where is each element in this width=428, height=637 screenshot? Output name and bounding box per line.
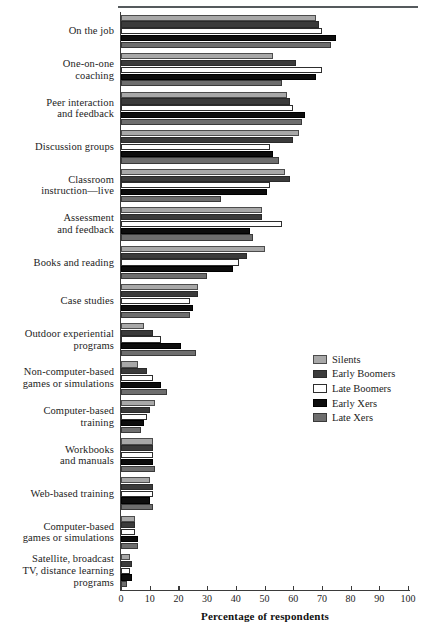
x-axis-line: [120, 590, 410, 591]
x-axis-tick-label: 40: [231, 593, 241, 604]
bar: [121, 67, 322, 73]
bar: [121, 522, 135, 528]
category-label: Web-based training: [0, 488, 114, 500]
x-axis: Percentage of respondents 01020304050607…: [120, 590, 428, 636]
category-label: Discussion groups: [0, 141, 114, 153]
bar: [121, 466, 155, 472]
category-label: Case studies: [0, 295, 114, 307]
bar: [121, 389, 167, 395]
bar: [121, 189, 267, 195]
bar: [121, 246, 265, 252]
x-axis-tick-label: 80: [346, 593, 356, 604]
category-label: One-on-onecoaching: [0, 58, 114, 81]
legend-item-silents[interactable]: Silents: [313, 352, 425, 367]
legend-item-early-boomers[interactable]: Early Boomers: [313, 367, 425, 382]
bar: [121, 92, 287, 98]
bar: [121, 21, 319, 27]
legend-swatch-icon: [313, 370, 327, 379]
x-axis-tick: [351, 586, 352, 591]
x-axis-tick-label: 10: [145, 593, 155, 604]
bar: [121, 259, 239, 265]
bar: [121, 516, 135, 522]
bar: [121, 234, 253, 240]
legend-label: Early Xers: [332, 398, 377, 409]
bar: [121, 74, 316, 80]
x-axis-tick: [293, 586, 294, 591]
x-axis-title: Percentage of respondents: [120, 610, 410, 622]
bar: [121, 445, 153, 451]
bar: [121, 484, 153, 490]
legend-item-early-xers[interactable]: Early Xers: [313, 396, 425, 411]
bar: [121, 28, 322, 34]
bar: [121, 574, 132, 580]
bar: [121, 477, 150, 483]
bar: [121, 291, 198, 297]
bar: [121, 491, 153, 497]
legend-label: Late Boomers: [332, 383, 391, 394]
x-axis-tick: [322, 586, 323, 591]
bar: [121, 452, 153, 458]
bar: [121, 105, 293, 111]
category-label: Classroominstruction—live: [0, 174, 114, 197]
bar: [121, 284, 198, 290]
bar: [121, 98, 290, 104]
bar: [121, 459, 153, 465]
category-label: Books and reading: [0, 257, 114, 269]
bar: [121, 312, 190, 318]
x-axis-tick: [236, 586, 237, 591]
category-label: Computer-basedtraining: [0, 405, 114, 428]
bar: [121, 207, 262, 213]
legend: SilentsEarly BoomersLate BoomersEarly Xe…: [313, 352, 425, 425]
x-axis-tick-label: 70: [317, 593, 327, 604]
bar: [121, 343, 181, 349]
legend-item-late-boomers[interactable]: Late Boomers: [313, 381, 425, 396]
bar: [121, 53, 273, 59]
bar: [121, 42, 331, 48]
bar: [121, 273, 207, 279]
bar: [121, 368, 147, 374]
legend-label: Early Boomers: [332, 368, 395, 379]
bar: [121, 375, 153, 381]
bar: [121, 427, 141, 433]
bar: [121, 266, 233, 272]
bar: [121, 323, 144, 329]
plot-area: On the jobOne-on-onecoachingPeer interac…: [0, 12, 428, 590]
bar: [121, 228, 250, 234]
bar: [121, 305, 193, 311]
bar: [121, 112, 305, 118]
bar: [121, 137, 293, 143]
bar: [121, 151, 273, 157]
x-axis-tick: [150, 586, 151, 591]
x-axis-tick-label: 60: [288, 593, 298, 604]
legend-label: Silents: [332, 354, 361, 365]
legend-swatch-icon: [313, 399, 327, 408]
bar: [121, 214, 262, 220]
legend-item-late-xers[interactable]: Late Xers: [313, 410, 425, 425]
bar: [121, 350, 196, 356]
bar: [121, 554, 130, 560]
category-label: Workbooksand manuals: [0, 444, 114, 467]
bar: [121, 80, 282, 86]
bar: [121, 298, 190, 304]
bar: [121, 336, 161, 342]
x-axis-tick-label: 90: [374, 593, 384, 604]
x-axis-tick-label: 30: [202, 593, 212, 604]
category-label: Assessmentand feedback: [0, 212, 114, 235]
top-rule: [118, 6, 418, 8]
bar: [121, 157, 279, 163]
x-axis-tick: [379, 586, 380, 591]
bar: [121, 382, 161, 388]
category-label: Non-computer-basedgames or simulations: [0, 366, 114, 389]
bar: [121, 144, 270, 150]
x-axis-tick-label: 50: [260, 593, 270, 604]
x-axis-tick: [265, 586, 266, 591]
legend-swatch-icon: [313, 384, 327, 393]
bar: [121, 543, 138, 549]
x-axis-tick-label: 100: [401, 593, 416, 604]
bar: [121, 15, 316, 21]
legend-swatch-icon: [313, 355, 327, 364]
bar: [121, 182, 270, 188]
bar: [121, 35, 336, 41]
x-axis-tick: [408, 586, 409, 591]
bar: [121, 420, 144, 426]
